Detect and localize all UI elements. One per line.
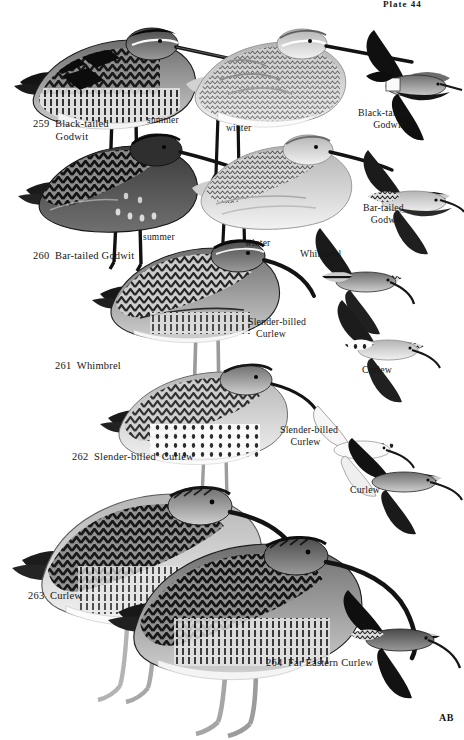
illustration-whimbrel-flight: [316, 228, 415, 334]
plate-header: Plate 44: [383, 0, 422, 10]
flight-label-curlew-lower: Curlew: [350, 484, 380, 496]
species-label-263: 263 Curlew: [28, 590, 82, 603]
field-guide-plate: Plate 44 259 Black-tailed Godwit 260 Bar…: [0, 0, 464, 740]
species-label-260: 260 Bar-tailed Godwit: [33, 250, 134, 263]
flight-label-whimbrel: Whimbrel: [300, 248, 341, 260]
flight-label-bar-tailed-godwit: Bar-tailed Godwit: [363, 202, 404, 226]
illustration-slender-billed-curlew-flight-upper: [338, 300, 441, 402]
flight-label-slender-billed-curlew-lower: Slender-billed Curlew: [280, 424, 338, 448]
artist-signature: AB: [439, 712, 454, 724]
plumage-label-winter-259: winter: [226, 123, 251, 135]
flight-label-curlew-upper: Curlew: [362, 364, 392, 376]
plumage-label-summer-260: summer: [143, 232, 175, 244]
flight-label-slender-billed-curlew-upper: Slender-billed Curlew: [248, 316, 306, 340]
plumage-label-summer-259: summer: [147, 115, 179, 127]
plumage-label-winter-260: winter: [245, 238, 270, 250]
species-label-264: 264 Far Eastern Curlew: [266, 657, 373, 670]
species-label-262: 262 Slender-billed Curlew: [72, 451, 194, 464]
species-label-261: 261 Whimbrel: [55, 360, 121, 373]
flight-label-black-tailed-godwit: Black-tailed Godwit: [358, 107, 408, 131]
species-label-259: 259 Black-tailed Godwit: [33, 118, 109, 144]
